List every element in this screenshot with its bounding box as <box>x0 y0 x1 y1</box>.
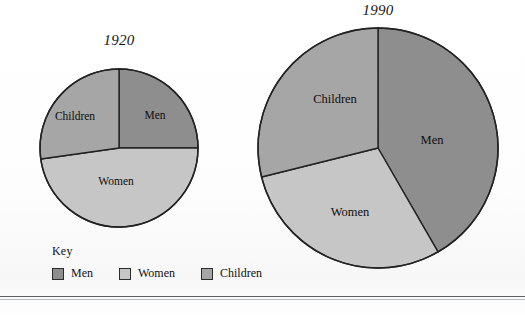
women-swatch <box>119 268 131 280</box>
legend-heading: Key <box>52 244 288 259</box>
legend-label-men: Men <box>71 266 93 281</box>
men-swatch <box>52 268 64 280</box>
slice-label-children-1990: Children <box>313 92 357 106</box>
slice-label-men-1990: Men <box>421 133 445 147</box>
legend-item-children[interactable]: Children <box>201 266 262 281</box>
legend-label-women: Women <box>138 266 175 281</box>
legend-items: MenWomenChildren <box>52 266 288 281</box>
legend-label-children: Children <box>220 266 262 281</box>
legend-item-women[interactable]: Women <box>119 266 175 281</box>
children-swatch <box>201 268 213 280</box>
slice-label-women-1990: Women <box>331 205 370 219</box>
footer-divider <box>0 296 525 297</box>
legend-item-men[interactable]: Men <box>52 266 93 281</box>
footer-divider-shadow <box>0 299 525 300</box>
legend: Key MenWomenChildren <box>52 244 288 281</box>
